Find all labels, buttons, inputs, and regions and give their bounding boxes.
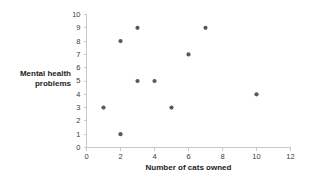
y-tick-label: 8 <box>76 37 80 46</box>
y-axis-title: Mental healthproblems <box>20 69 72 88</box>
data-point <box>169 106 173 110</box>
data-point <box>152 79 156 83</box>
y-tick-label: 7 <box>76 50 80 59</box>
data-point <box>254 92 258 96</box>
scatter-plot-figure: 012345678910024681012Number of cats owne… <box>0 0 310 181</box>
data-point <box>135 79 139 83</box>
data-point <box>101 106 105 110</box>
data-point <box>135 26 139 30</box>
data-point <box>118 39 122 43</box>
data-point <box>186 52 190 56</box>
y-tick-label: 4 <box>76 90 80 99</box>
y-tick-label: 3 <box>76 103 80 112</box>
y-tick-label: 0 <box>76 143 80 152</box>
plot-canvas: 012345678910024681012Number of cats owne… <box>0 0 310 181</box>
data-point <box>118 132 122 136</box>
data-point <box>203 26 207 30</box>
x-axis-title: Number of cats owned <box>146 163 232 172</box>
y-tick-label: 10 <box>72 10 80 19</box>
x-tick-label: 6 <box>186 152 190 161</box>
x-tick-label: 12 <box>286 152 294 161</box>
x-tick-label: 8 <box>220 152 224 161</box>
x-tick-label: 2 <box>118 152 122 161</box>
y-axis-title-line: problems <box>35 79 72 88</box>
y-tick-label: 5 <box>76 76 80 85</box>
y-tick-label: 1 <box>76 130 80 139</box>
y-tick-label: 9 <box>76 23 80 32</box>
y-tick-label: 6 <box>76 63 80 72</box>
y-axis-title-line: Mental health <box>20 69 71 78</box>
x-tick-label: 0 <box>84 152 88 161</box>
x-tick-label: 4 <box>152 152 156 161</box>
x-tick-label: 10 <box>252 152 260 161</box>
y-tick-label: 2 <box>76 116 80 125</box>
